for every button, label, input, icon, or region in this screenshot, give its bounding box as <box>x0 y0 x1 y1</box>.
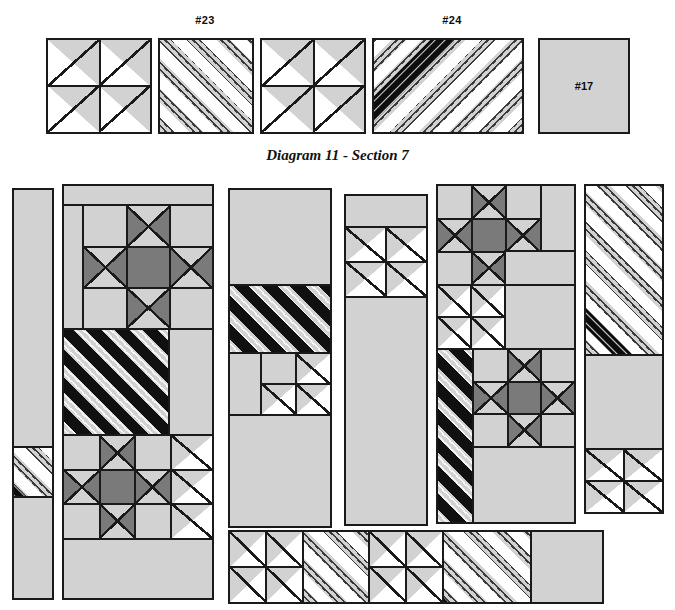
star-center <box>127 247 170 288</box>
hst-unit <box>370 532 406 567</box>
hst-unit <box>296 384 330 414</box>
col3-dark-stripe <box>228 284 332 354</box>
hst-unit <box>438 286 471 317</box>
dark-accent-stripe <box>584 245 664 356</box>
bottom-hst-group-1 <box>228 530 304 604</box>
col2-side-rectangle <box>168 328 214 436</box>
hst-unit <box>99 86 150 132</box>
hst-unit <box>262 86 313 132</box>
bottom-stripe-2 <box>442 530 532 604</box>
seam-line <box>265 532 267 602</box>
star-corner <box>541 350 574 382</box>
star-point-bottom <box>100 504 135 538</box>
block-label-24: #24 <box>442 14 461 26</box>
hst-unit <box>370 567 406 602</box>
seam-line <box>262 85 364 87</box>
top-block-hst-1 <box>46 38 152 134</box>
col4-hst-block <box>344 226 428 298</box>
seam-line <box>172 503 212 505</box>
col1-bottom-strip <box>12 496 54 600</box>
col6-hst-block <box>584 448 664 514</box>
col5-hst-block <box>436 284 506 350</box>
seam-line <box>48 85 150 87</box>
col2-ohio-star-1 <box>82 204 214 330</box>
dark-accent-stripe <box>372 38 454 134</box>
star-point-bottom <box>472 252 506 284</box>
hst-unit <box>624 481 662 512</box>
hst-unit <box>48 86 99 132</box>
col4-plain-top <box>344 194 428 228</box>
hst-unit <box>296 354 330 384</box>
seam-line <box>471 186 473 284</box>
star-point-top <box>472 186 506 219</box>
star-corner <box>438 186 472 219</box>
col2-top-sash <box>62 184 214 206</box>
seam-line <box>474 381 574 383</box>
col2-bottom-sash <box>62 538 214 600</box>
star-corner <box>474 350 508 382</box>
col1-top-strip <box>12 188 54 448</box>
star-corner <box>84 288 127 328</box>
hst-unit <box>471 317 504 348</box>
hst-unit <box>48 40 99 86</box>
seam-line <box>64 469 170 471</box>
star-point-right <box>135 470 170 504</box>
star-corner <box>135 436 170 470</box>
col2-left-sash <box>62 204 84 330</box>
seam-line <box>438 218 540 220</box>
star-point-top <box>127 206 170 247</box>
seam-line <box>64 503 170 505</box>
seam-line <box>470 286 472 348</box>
bottom-plain <box>530 530 604 604</box>
bottom-stripe-1 <box>302 530 370 604</box>
hst-unit <box>172 436 212 470</box>
col4-plain-bottom <box>344 296 428 526</box>
star-center <box>100 470 135 504</box>
seam-line <box>169 206 171 328</box>
star-corner <box>438 252 472 284</box>
star-center <box>472 219 506 252</box>
dark-accent-stripe <box>442 560 498 604</box>
hst-unit <box>266 532 302 567</box>
col3-hst-group <box>260 352 332 416</box>
star-point-top <box>100 436 135 470</box>
col5-plain-right <box>504 284 576 350</box>
star-corner <box>506 186 540 219</box>
hst-unit <box>266 567 302 602</box>
top-block-stripe-23 <box>158 38 254 134</box>
col5-ohio-star-2 <box>472 348 576 448</box>
star-point-left <box>438 219 472 252</box>
seam-line <box>405 532 407 602</box>
bottom-hst-group-2 <box>368 530 444 604</box>
top-block-stripe-24 <box>372 38 524 134</box>
star-corner <box>541 414 574 446</box>
col3-plain-bottom <box>228 414 332 528</box>
col6-plain <box>584 354 664 450</box>
dark-accent-stripe <box>158 96 181 134</box>
hst-unit <box>262 40 313 86</box>
hst-unit <box>586 481 624 512</box>
hst-unit <box>313 40 364 86</box>
seam-line <box>126 206 128 328</box>
col1-stripe-segment <box>12 446 54 498</box>
hst-unit <box>262 384 296 414</box>
seam-line <box>507 350 509 446</box>
star-corner <box>135 504 170 538</box>
col5-side-plain-top <box>540 184 576 252</box>
seam-line <box>172 469 212 471</box>
block-label-17: #17 <box>540 80 628 92</box>
hst-unit <box>586 450 624 481</box>
seam-line <box>99 436 101 538</box>
star-point-top <box>508 350 541 382</box>
col6-light-stripe <box>584 184 664 356</box>
hst-unit <box>624 450 662 481</box>
hst-unit <box>230 567 266 602</box>
col5-side-plain-mid <box>504 250 576 286</box>
star-point-right <box>541 382 574 414</box>
star-center <box>508 382 541 414</box>
hst-unit <box>346 262 386 296</box>
col5-dark-stripe-strip <box>436 348 474 524</box>
col3-plain-top <box>228 188 332 286</box>
seam-line <box>540 350 542 446</box>
star-point-left <box>84 247 127 288</box>
